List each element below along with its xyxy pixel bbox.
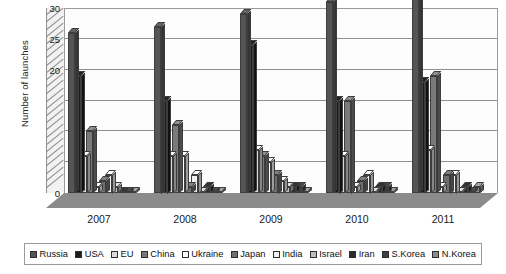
legend-label: India — [282, 249, 302, 259]
bar-group — [240, 8, 310, 193]
legend-item-israel[interactable]: Israel — [310, 249, 342, 259]
x-tick-label: 2008 — [173, 213, 196, 225]
bar-front — [326, 2, 333, 193]
legend-item-ukraine[interactable]: Ukraine — [182, 249, 224, 259]
bar-side — [161, 23, 165, 193]
legend-label: S.Korea — [391, 249, 425, 259]
bar-side — [173, 153, 177, 193]
x-tick-label: 2010 — [345, 213, 368, 225]
bar-group — [68, 8, 138, 193]
bar-side — [93, 128, 97, 193]
bar-side — [345, 153, 349, 193]
bar-side — [87, 153, 91, 193]
legend-label: Israel — [319, 249, 342, 259]
legend-label: N.Korea — [442, 249, 476, 259]
legend-label: USA — [85, 249, 104, 259]
y-axis-title: Number of launches — [19, 14, 30, 154]
bar-side — [253, 42, 257, 193]
legend: RussiaUSAEUChinaUkraineJapanIndiaIsraelI… — [24, 243, 482, 265]
bar-side — [333, 0, 337, 193]
legend-swatch-icon — [111, 251, 118, 258]
legend-swatch-icon — [432, 251, 439, 258]
bar-front — [154, 27, 161, 194]
bar-side — [179, 122, 183, 193]
legend-item-nkorea[interactable]: N.Korea — [432, 249, 476, 259]
bar-group — [326, 8, 396, 193]
bar-side — [265, 153, 269, 193]
legend-item-skorea[interactable]: S.Korea — [382, 249, 425, 259]
x-tick-label: 2009 — [259, 213, 282, 225]
bar-side — [425, 79, 429, 193]
bar-groups — [46, 8, 498, 208]
legend-item-russia[interactable]: Russia — [30, 249, 68, 259]
legend-label: Japan — [240, 249, 265, 259]
x-tick-label: 2011 — [432, 213, 455, 225]
legend-label: Ukraine — [191, 249, 223, 259]
bar-group — [154, 8, 224, 193]
bar-side — [247, 11, 251, 193]
legend-swatch-icon — [310, 251, 317, 258]
legend-swatch-icon — [30, 251, 37, 258]
bar-chart: Number of launches 0202530 2007200820092… — [0, 0, 506, 274]
legend-item-japan[interactable]: Japan — [231, 249, 266, 259]
bar — [68, 33, 75, 193]
legend-item-china[interactable]: China — [141, 249, 175, 259]
bar-side — [437, 72, 441, 193]
bar-group — [412, 8, 482, 193]
bar-side — [351, 97, 355, 193]
x-tick-label: 2007 — [87, 213, 110, 225]
legend-swatch-icon — [349, 251, 356, 258]
legend-swatch-icon — [182, 251, 189, 258]
bar-side — [431, 146, 435, 193]
bar — [240, 14, 247, 193]
bar-side — [259, 146, 263, 193]
legend-label: Russia — [40, 249, 68, 259]
bar — [326, 2, 333, 193]
legend-item-india[interactable]: India — [273, 249, 303, 259]
bar-side — [185, 153, 189, 193]
bar-side — [419, 0, 423, 193]
legend-label: EU — [121, 249, 134, 259]
bar — [412, 0, 419, 193]
bar-front — [412, 0, 419, 193]
legend-swatch-icon — [141, 251, 148, 258]
bar-side — [271, 159, 275, 193]
legend-swatch-icon — [75, 251, 82, 258]
legend-label: Iran — [359, 249, 375, 259]
bar-side — [75, 29, 79, 193]
bar-front — [240, 14, 247, 193]
x-axis-labels: 20072008200920102011 — [46, 213, 498, 231]
legend-item-iran[interactable]: Iran — [349, 249, 375, 259]
bar — [154, 27, 161, 194]
bar-front — [68, 33, 75, 193]
plot-area: 0202530 — [46, 8, 498, 208]
legend-swatch-icon — [382, 251, 389, 258]
legend-item-eu[interactable]: EU — [111, 249, 133, 259]
bar-side — [339, 97, 343, 193]
legend-label: China — [150, 249, 174, 259]
legend-swatch-icon — [273, 251, 280, 258]
bar-side — [167, 97, 171, 193]
legend-swatch-icon — [231, 251, 238, 258]
bar-side — [81, 72, 85, 193]
legend-item-usa[interactable]: USA — [75, 249, 104, 259]
